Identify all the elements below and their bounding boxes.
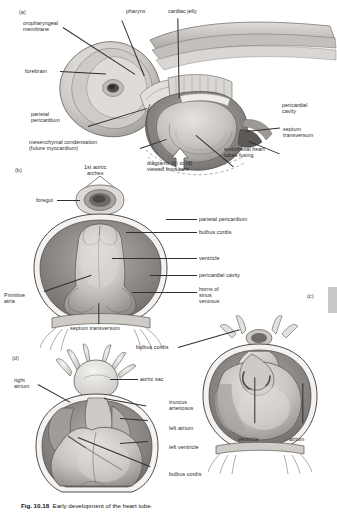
leader-ventricle-b [112,258,197,259]
figure-artwork [0,0,337,514]
label-first-aortic-arches: 1st aortic arches [84,164,106,176]
leader-horns-sinus-venosus [132,292,197,293]
label-parietal-pericardium-a: parietal pericardium [31,111,60,123]
label-pericardial-cavity-a: pericardial cavity [282,102,307,114]
label-cardiac-jelly: cardiac jelly [168,8,197,14]
label-foregut: foregut [36,197,53,203]
label-left-ventricle: left ventricle [169,444,198,450]
label-parietal-pericardium-b: parietal pericardium [199,216,247,222]
panel-marker-b: (b) [15,167,22,173]
panel-a-illustration [60,22,336,175]
label-pharynx: pharynx [126,8,146,14]
leader-ventricle-c [255,377,256,423]
leader-parietal-pericardium-b [166,219,197,220]
leader-pericardial-cavity-b [150,275,197,276]
leader-septum-transversum-b [99,303,100,324]
label-viewing-direction: diagrams (b) to (d) viewed from here [147,160,192,172]
panel-c-illustration [203,316,317,474]
leader-aortic-sac [110,379,138,380]
panel-marker-d: (d) [12,355,19,361]
figure-root: (a) (b) (c) (d) oropharyngeal membrane p… [0,0,337,514]
label-right-atrium: right atrium [14,377,29,389]
label-bulbus-cordis-d: bulbus cordis [169,471,201,477]
panel-marker-a: (a) [19,9,26,15]
label-septum-transversum-a: septum transversum [283,126,313,138]
label-pericardial-cavity-b: pericardial cavity [199,272,240,278]
label-truncus-arteriosus: truncus arteriosus [169,399,193,411]
page-edge-tab [328,287,337,313]
label-oropharyngeal-membrane: oropharyngeal membrane [23,20,58,32]
label-mesenchymal-condensation: mesenchymal condensation (future myocard… [29,139,97,151]
figure-number: Fig. 10.18 [21,502,49,509]
figure-caption: Fig. 10.18 Early development of the hear… [14,495,152,514]
panel-marker-c: (c) [307,293,314,299]
label-horns-of-sinus-venosus: horns of sinus venosus [199,286,219,305]
label-bulbus-cordis-c: bulbus cordis [136,344,168,350]
leader-foregut [57,200,80,201]
leader-bulbus-cordis-b [126,232,197,233]
figure-caption-text: Early development of the heart tube. [53,502,153,509]
label-atrium-c: atrium [289,436,304,442]
label-ventricle-c: ventricle [238,436,259,442]
label-ventricle-b: ventricle [199,255,220,261]
leader-atrium-c [303,383,304,423]
label-primitive-atria: Primitive atria [4,292,25,304]
label-aortic-sac: aortic sac [140,376,164,382]
label-septum-transversum-b: septum transversum [70,325,120,331]
label-endothelial-heart-tubes-fusing: endothelial heart tubes fusing [224,146,265,158]
label-bulbus-cordis-b: bulbus cordis [199,229,231,235]
panel-d-illustration [36,344,158,492]
label-forebrain: forebrain [25,68,47,74]
label-left-atrium: left atrium [169,425,193,431]
